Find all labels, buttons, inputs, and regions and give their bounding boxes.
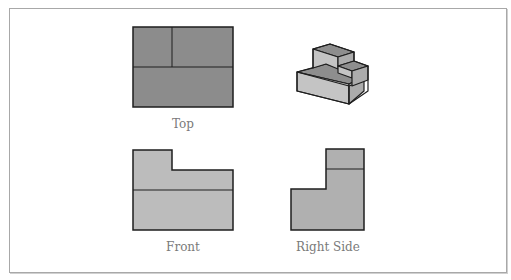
top-view (133, 27, 233, 107)
front-view-label: Front (123, 240, 243, 254)
right-side-view (291, 149, 364, 230)
isometric-view (297, 44, 368, 104)
projection-diagram (0, 0, 511, 280)
right-side-view-label: Right Side (268, 240, 388, 254)
top-view-label: Top (123, 117, 243, 131)
front-view (133, 150, 233, 230)
